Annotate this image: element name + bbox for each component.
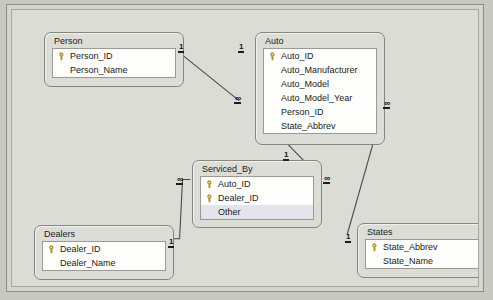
cardinality-auto-many-left: ∞ [234, 94, 241, 104]
entity-title-dealers: Dealers [35, 226, 173, 241]
cardinality-auto-many-right: ∞ [383, 99, 390, 109]
key-icon-slot [369, 243, 382, 252]
field-name: Dealer_Name [59, 258, 116, 268]
field-row[interactable]: Person_ID [53, 49, 175, 63]
primary-key-icon [269, 52, 278, 61]
cardinality-dealers-one: 1 [168, 237, 174, 248]
cardinality-serv-many-left: ∞ [176, 175, 183, 185]
field-name: Person_Name [69, 65, 128, 75]
primary-key-icon [371, 243, 380, 252]
field-list-auto: Auto_IDAuto_ManufacturerAuto_ModelAuto_M… [263, 48, 377, 134]
field-name: Dealer_ID [217, 193, 259, 203]
key-icon-slot [56, 52, 69, 61]
key-icon-slot [204, 194, 217, 203]
field-list-dealers: Dealer_IDDealer_Name [42, 241, 166, 271]
field-row[interactable]: Auto_ID [201, 177, 313, 191]
entity-auto[interactable]: AutoAuto_IDAuto_ManufacturerAuto_ModelAu… [255, 32, 385, 145]
field-name: State_Abbrev [382, 242, 438, 252]
field-row[interactable]: Dealer_ID [43, 242, 165, 256]
field-row[interactable]: Person_ID [264, 105, 376, 119]
field-row[interactable]: State_Abbrev [264, 119, 376, 133]
field-row-selected[interactable]: Other [201, 205, 313, 219]
entity-title-states: States [358, 224, 479, 239]
entity-person[interactable]: PersonPerson_IDPerson_Name [44, 32, 184, 87]
primary-key-icon [58, 52, 67, 61]
field-row[interactable]: Dealer_ID [201, 191, 313, 205]
primary-key-icon [206, 194, 215, 203]
entity-dealers[interactable]: DealersDealer_IDDealer_Name [34, 225, 174, 280]
field-name: Auto_ID [280, 51, 314, 61]
cardinality-auto-one-bottom: 1 [283, 150, 289, 161]
relationships-window: PersonPerson_IDPerson_NameAutoAuto_IDAut… [6, 4, 484, 292]
field-row[interactable]: Dealer_Name [43, 256, 165, 270]
entity-title-serviced_by: Serviced_By [193, 161, 321, 176]
field-row[interactable]: Auto_Model [264, 77, 376, 91]
field-name: State_Name [382, 256, 433, 266]
primary-key-icon [48, 245, 57, 254]
key-icon-slot [46, 245, 59, 254]
field-row[interactable]: Auto_Model_Year [264, 91, 376, 105]
field-row[interactable]: Auto_ID [264, 49, 376, 63]
cardinality-auto-one-top: 1 [238, 42, 244, 53]
field-row[interactable]: State_Name [366, 254, 478, 268]
field-name: Dealer_ID [59, 244, 101, 254]
field-row[interactable]: State_Abbrev [366, 240, 478, 254]
field-name: Auto_Manufacturer [280, 65, 358, 75]
cardinality-person-one: 1 [178, 42, 184, 53]
field-name: State_Abbrev [280, 121, 336, 131]
field-name: Auto_Model_Year [280, 93, 352, 103]
diagram-canvas[interactable]: PersonPerson_IDPerson_NameAutoAuto_IDAut… [11, 9, 479, 287]
field-name: Auto_ID [217, 179, 251, 189]
field-name: Auto_Model [280, 79, 329, 89]
entity-title-person: Person [45, 33, 183, 48]
entity-states[interactable]: StatesState_AbbrevState_Name [357, 223, 479, 278]
cardinality-states-one: 1 [345, 232, 351, 243]
field-row[interactable]: Auto_Manufacturer [264, 63, 376, 77]
key-icon-slot [204, 180, 217, 189]
key-icon-slot [267, 52, 280, 61]
entity-serviced_by[interactable]: Serviced_ByAuto_IDDealer_IDOther [192, 160, 322, 228]
field-row[interactable]: Person_Name [53, 63, 175, 77]
field-name: Other [217, 207, 241, 217]
field-list-person: Person_IDPerson_Name [52, 48, 176, 78]
field-list-states: State_AbbrevState_Name [365, 239, 479, 269]
relationship-line-person-auto[interactable] [177, 50, 239, 100]
primary-key-icon [206, 180, 215, 189]
field-name: Person_ID [69, 51, 113, 61]
field-list-serviced_by: Auto_IDDealer_IDOther [200, 176, 314, 220]
entity-title-auto: Auto [256, 33, 384, 48]
cardinality-serv-many-right: ∞ [323, 174, 330, 184]
field-name: Person_ID [280, 107, 324, 117]
